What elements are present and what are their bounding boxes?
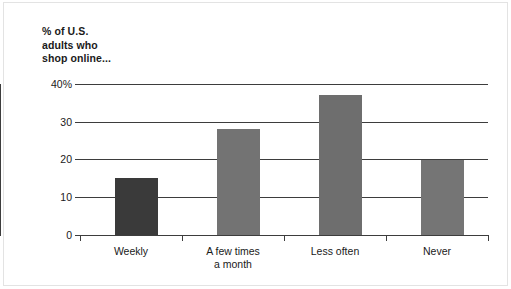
bar-never[interactable]	[421, 160, 464, 236]
y-axis-label-40: 40%	[51, 78, 72, 90]
plot-area: 40% 30 20 10 0	[80, 84, 488, 235]
x-axis-label-less-often: Less often	[280, 245, 390, 258]
y-axis-label-30: 30	[60, 116, 72, 128]
gridline-30: 30	[80, 122, 488, 123]
x-tick-start	[80, 235, 81, 241]
x-tick-2	[284, 235, 285, 241]
x-tick-1	[182, 235, 183, 241]
chart-screenshot: % of U.S. adults who shop online... 40% …	[0, 0, 511, 289]
bar-a-few-times-a-month[interactable]	[217, 129, 260, 235]
x-tick-end	[488, 235, 489, 241]
y-axis-label-20: 20	[60, 153, 72, 165]
y-tick-30	[75, 122, 80, 123]
gridline-40: 40%	[80, 84, 488, 85]
y-tick-10	[75, 197, 80, 198]
bar-less-often[interactable]	[319, 95, 362, 235]
x-axis-label-never: Never	[382, 245, 492, 258]
x-axis-label-a-few-times-a-month: A few times a month	[178, 245, 288, 271]
bar-weekly[interactable]	[115, 178, 158, 235]
chart-title: % of U.S. adults who shop online...	[42, 25, 182, 66]
y-tick-20	[75, 159, 80, 160]
x-tick-3	[386, 235, 387, 241]
y-axis-line	[0, 84, 1, 236]
x-axis-label-weekly: Weekly	[76, 245, 186, 258]
y-axis-label-0: 0	[66, 229, 72, 241]
y-tick-40	[75, 84, 80, 85]
y-axis-label-10: 10	[60, 191, 72, 203]
